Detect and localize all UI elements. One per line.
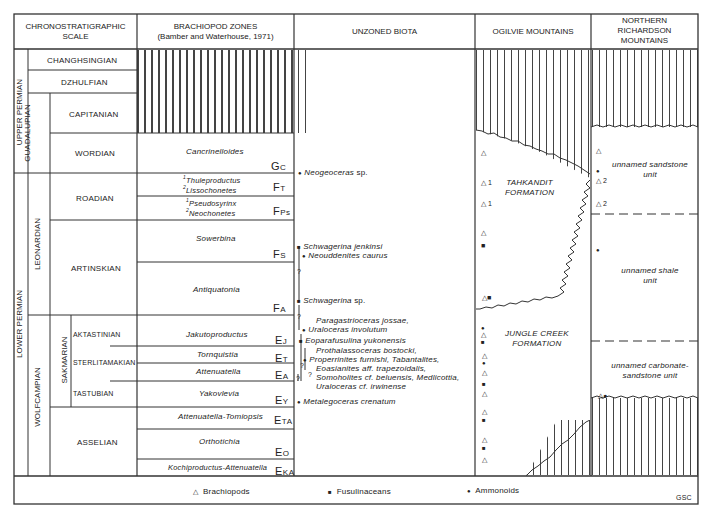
zone-tornquistia: Tornquistia	[197, 350, 238, 359]
question-mark-2: ?	[297, 313, 301, 320]
zone-attenuatella: Attenuatella	[196, 367, 241, 376]
legend-fusulinaceans: ■ Fusulinaceans	[328, 487, 391, 496]
richardson-unnamed-shale-unit: unnamed shale unit	[604, 266, 696, 286]
series-lower-permian: LOWER PERMIAN	[15, 263, 27, 385]
carbonate-line1: unnamed carbonate-	[604, 361, 696, 371]
zone-cancrinelloides: Cancrinelloides	[186, 147, 244, 156]
ogilvie-fossil-4: ■	[481, 242, 485, 250]
question-mark-5: ?	[296, 375, 300, 382]
zone-code-fs: FS	[273, 248, 286, 260]
jungle-line2: FORMATION	[505, 339, 569, 349]
header-ogilvie-mountains: OGILVIE MOUNTAINS	[475, 27, 591, 37]
tahkandit-line2: FORMATION	[505, 188, 554, 198]
zone-neochonetes: 2Neochonetes	[186, 207, 235, 218]
header-chronostratigraphic-scale: CHRONOSTRATIGRAPHIC SCALE	[14, 22, 137, 42]
stage-sterlitamakian: STERLITAMAKIAN	[73, 359, 136, 366]
header-richardson-line1: NORTHERN	[591, 16, 698, 26]
stage-aktastinian: AKTASTINIAN	[73, 331, 121, 338]
stage-artinskian: ARTINSKIAN	[71, 264, 121, 273]
sandstone-line1: unnamed sandstone	[604, 160, 696, 170]
legend-ammonoids: ● Ammonoids	[467, 486, 519, 495]
zone-code-ft: FT	[273, 181, 286, 193]
ogilvie-fossil-10: ●	[482, 359, 486, 367]
richardson-unnamed-carbonate-sandstone-unit: unnamed carbonate- sandstone unit	[604, 361, 696, 381]
ogilvie-fossil-15: ■	[482, 416, 486, 424]
header-richardson-line2: RICHARDSON	[591, 26, 698, 36]
ogilvie-fossil-13: △	[482, 390, 487, 398]
biota-prothalassoceras-bostocki: Prothalassoceras bostocki,	[316, 346, 417, 355]
zone-kochiproductus-attenuatella: Kochiproductus-Attenuatella	[168, 463, 267, 472]
zone-pseudosyrinx: 1Pseudosyrinx	[186, 197, 236, 208]
biota-metalegoceras-crenatum: ● Metalegoceras crenatum	[297, 397, 396, 406]
stage-dzhulfian: DZHULFIAN	[61, 78, 108, 87]
biota-paragastrioceras-jossae: Paragastrioceras jossae,	[316, 316, 409, 325]
ogilvie-fossil-8: ■	[481, 338, 485, 346]
legend-ammonoids-label: Ammonoids	[475, 486, 519, 495]
richardson-fossil-2: △ 2	[596, 177, 607, 185]
header-brachiopod-line1: BRACHIOPOD ZONES	[137, 22, 294, 32]
header-unzoned-biota: UNZONED BIOTA	[294, 27, 475, 37]
question-mark-1: ?	[297, 268, 301, 275]
ogilvie-fossil-18: △	[482, 456, 487, 464]
triangle-icon: △	[193, 488, 198, 495]
richardson-unnamed-sandstone-unit: unnamed sandstone unit	[604, 160, 696, 180]
square-icon: ■	[328, 489, 332, 495]
carbonate-line2: sandstone unit	[604, 371, 696, 381]
zone-attenuatella-tomiopsis: Attenuatella-Tomiopsis	[178, 412, 263, 421]
subseries-sakmarian: SAKMARIAN	[60, 328, 72, 392]
ogilvie-fossil-0: △	[481, 149, 486, 157]
header-brachiopod-zones: BRACHIOPOD ZONES (Bamber and Waterhouse,…	[137, 22, 294, 42]
question-mark-3: ?	[300, 362, 304, 369]
ogilvie-jungle-creek-formation: JUNGLE CREEK FORMATION	[505, 329, 569, 349]
ogilvie-fossil-2: △ 1	[481, 200, 492, 208]
biota-schwagerina-jenkinsi: ■ Schwagerina jenkinsi	[297, 242, 382, 251]
tahkandit-line1: TAHKANDIT	[505, 178, 554, 188]
zone-code-eka: EKA	[275, 465, 295, 477]
stage-roadian: ROADIAN	[76, 194, 114, 203]
stage-capitanian: CAPITANIAN	[69, 110, 118, 119]
credit-gsc: GSC	[676, 494, 692, 501]
ogilvie-fossil-1: △ 1	[481, 179, 492, 187]
biota-uraloceras-involutum: ● Uraloceras involutum	[302, 325, 387, 334]
shale-line1: unnamed shale	[604, 266, 696, 276]
zone-code-eta: ETA	[274, 414, 292, 426]
richardson-fossil-0: △	[596, 147, 601, 155]
richardson-fossil-3: △ 2	[596, 200, 607, 208]
ogilvie-fossil-12: ■	[482, 380, 486, 388]
ogilvie-tahkandit-formation: TAHKANDIT FORMATION	[505, 178, 554, 198]
biota-eoparafusulina-yukonensis: ■ Eoparafusulina yukonensis	[299, 336, 406, 345]
header-richardson-line3: MOUNTAINS	[591, 36, 698, 46]
stage-wordian: WORDIAN	[75, 149, 115, 158]
ogilvie-fossil-11: △	[482, 369, 487, 377]
biota-schwagerina-sp: ■ Schwagerina sp.	[297, 296, 365, 305]
zone-sowerbina: Sowerbina	[196, 234, 236, 243]
sandstone-line2: unit	[604, 170, 696, 180]
zone-code-fa: FA	[273, 302, 286, 314]
biota-uraloceras-irwinense: Uraloceras cf. irwinense	[316, 382, 406, 391]
biota-properrinites-furnishi: ● Properrinites furnishi, Tabantalites,	[303, 355, 440, 364]
ogilvie-fossil-5: △■	[482, 294, 491, 302]
question-mark-4: ?	[308, 371, 312, 378]
stage-asselian: ASSELIAN	[77, 438, 118, 447]
zone-code-fps: FPs	[273, 205, 291, 217]
stage-tastubian: TASTUBIAN	[73, 390, 114, 397]
zone-lissochonetes: 2Lissochonetes	[183, 184, 237, 195]
zone-code-et: ET	[275, 352, 288, 364]
subseries-wolfcampian: WOLFCAMPIAN	[33, 361, 45, 433]
zone-code-eo: EO	[275, 446, 290, 458]
richardson-fossil-1: ●	[596, 167, 600, 175]
zone-code-ea: EA	[275, 369, 289, 381]
header-brachiopod-line2: (Bamber and Waterhouse, 1971)	[137, 32, 294, 42]
zone-code-ey: EY	[275, 394, 289, 406]
legend-fusulinaceans-label: Fusulinaceans	[337, 487, 391, 496]
richardson-fossil-5: △●	[598, 392, 607, 400]
zone-yakovlevia: Yakovlevia	[199, 389, 239, 398]
ogilvie-fossil-14: △	[482, 408, 487, 416]
shale-line2: unit	[604, 276, 696, 286]
legend-brachiopods: △ Brachiopods	[193, 487, 250, 496]
zone-orthotichia: Orthotichia	[199, 437, 240, 446]
header-northern-richardson-mountains: NORTHERN RICHARDSON MOUNTAINS	[591, 16, 698, 46]
ogilvie-fossil-16: △	[482, 436, 487, 444]
zone-thuleproductus: 1Thuleproductus	[183, 174, 240, 185]
subseries-guadalupian: GUADALUPIAN	[23, 103, 35, 163]
